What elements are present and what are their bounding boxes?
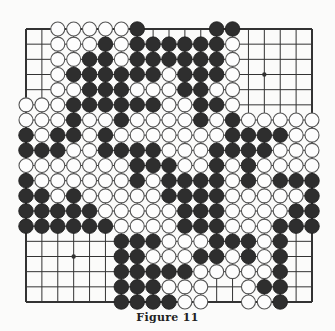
white-stone: [194, 265, 208, 279]
white-stone: [226, 52, 240, 66]
white-stone: [226, 250, 240, 264]
white-stone: [51, 22, 65, 36]
black-stone: [209, 234, 224, 249]
white-stone: [51, 52, 65, 66]
white-stone: [226, 37, 240, 51]
white-stone: [178, 250, 192, 264]
black-stone: [209, 219, 224, 234]
black-stone: [114, 295, 129, 310]
white-stone: [305, 128, 319, 142]
black-stone: [19, 128, 34, 143]
black-stone: [98, 37, 113, 52]
white-stone: [194, 234, 208, 248]
white-stone: [83, 22, 97, 36]
white-stone: [146, 219, 160, 233]
white-stone: [130, 128, 144, 142]
black-stone: [66, 128, 81, 143]
white-stone: [226, 83, 240, 97]
black-stone: [130, 249, 145, 264]
white-stone: [98, 159, 112, 173]
black-stone: [209, 143, 224, 158]
black-stone: [209, 249, 224, 264]
black-stone: [82, 67, 97, 82]
star-point-icon: [71, 254, 75, 258]
white-stone: [130, 204, 144, 218]
black-stone: [66, 219, 81, 234]
white-stone: [162, 204, 176, 218]
white-stone: [83, 174, 97, 188]
black-stone: [130, 295, 145, 310]
black-stone: [19, 189, 34, 204]
white-stone: [35, 159, 49, 173]
white-stone: [83, 143, 97, 157]
black-stone: [209, 37, 224, 52]
black-stone: [130, 234, 145, 249]
white-stone: [51, 174, 65, 188]
black-stone: [193, 52, 208, 67]
black-stone: [146, 52, 161, 67]
black-stone: [130, 173, 145, 188]
black-stone: [178, 67, 193, 82]
white-stone: [289, 159, 303, 173]
black-stone: [98, 82, 113, 97]
black-stone: [82, 98, 97, 113]
white-stone: [130, 189, 144, 203]
black-stone: [193, 98, 208, 113]
white-stone: [241, 295, 255, 309]
black-stone: [130, 143, 145, 158]
black-stone: [35, 143, 50, 158]
black-stone: [209, 204, 224, 219]
white-stone: [289, 113, 303, 127]
white-stone: [273, 189, 287, 203]
black-stone: [114, 264, 129, 279]
black-stone: [225, 113, 240, 128]
white-stone: [226, 219, 240, 233]
white-stone: [146, 113, 160, 127]
black-stone: [146, 67, 161, 82]
white-stone: [130, 219, 144, 233]
white-stone: [19, 159, 33, 173]
black-stone: [130, 22, 145, 37]
white-stone: [146, 174, 160, 188]
white-stone: [273, 204, 287, 218]
black-stone: [146, 37, 161, 52]
black-stone: [209, 189, 224, 204]
black-stone: [209, 98, 224, 113]
white-stone: [226, 189, 240, 203]
white-stone: [210, 113, 224, 127]
black-stone: [146, 280, 161, 295]
white-stone: [67, 22, 81, 36]
white-stone: [257, 265, 271, 279]
white-stone: [178, 234, 192, 248]
white-stone: [210, 83, 224, 97]
white-stone: [98, 113, 112, 127]
white-stone: [67, 37, 81, 51]
white-stone: [35, 174, 49, 188]
white-stone: [162, 68, 176, 82]
black-stone: [146, 264, 161, 279]
black-stone: [305, 204, 320, 219]
white-stone: [226, 204, 240, 218]
white-stone: [226, 159, 240, 173]
white-stone: [194, 143, 208, 157]
white-stone: [257, 219, 271, 233]
white-stone: [51, 189, 65, 203]
black-stone: [98, 128, 113, 143]
white-stone: [146, 204, 160, 218]
black-stone: [289, 204, 304, 219]
white-stone: [67, 52, 81, 66]
white-stone: [83, 159, 97, 173]
white-stone: [51, 98, 65, 112]
white-stone: [226, 98, 240, 112]
black-stone: [209, 158, 224, 173]
white-stone: [67, 174, 81, 188]
black-stone: [241, 128, 256, 143]
white-stone: [178, 280, 192, 294]
white-stone: [67, 143, 81, 157]
black-stone: [19, 204, 34, 219]
black-stone: [209, 22, 224, 37]
black-stone: [257, 143, 272, 158]
white-stone: [226, 265, 240, 279]
black-stone: [273, 295, 288, 310]
black-stone: [178, 189, 193, 204]
